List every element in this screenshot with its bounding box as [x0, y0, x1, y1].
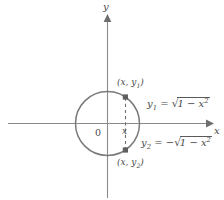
x-axis-label: x: [214, 126, 220, 136]
lower-point-label-prefix: (x, y: [117, 157, 136, 167]
upper-point-label-suffix: ): [140, 77, 144, 87]
equation-2-radicand-body: 1 − x: [180, 137, 207, 148]
chord-x-label: x: [122, 127, 127, 136]
equation-1-radicand: 1 − x2: [177, 97, 209, 109]
origin-label: 0: [95, 128, 101, 138]
lower-point-label-suffix: ): [140, 157, 144, 167]
lower-point-marker: [123, 147, 128, 152]
equation-2-radicand: 1 − x2: [180, 136, 212, 148]
equation-1-exponent: 2: [204, 97, 208, 105]
equation-1-subscript: 1: [153, 104, 157, 112]
upper-semicircle-equation: y1 = √1 − x2: [147, 98, 210, 112]
lower-point-label: (x, y2): [117, 158, 144, 169]
equation-2-exponent: 2: [207, 136, 211, 144]
unit-circle-diagram: y x 0 x (x, y1) (x, y2) y1 = √1 − x2 y2 …: [0, 0, 224, 200]
equation-2-relation: =: [154, 137, 162, 148]
upper-point-label: (x, y1): [117, 78, 144, 89]
equation-1-radicand-body: 1 − x: [177, 98, 204, 109]
upper-point-label-prefix: (x, y: [117, 77, 136, 87]
equation-1-relation: =: [160, 98, 168, 109]
equation-2-sign: −: [166, 137, 174, 148]
x-axis-arrowhead: [206, 120, 214, 128]
equation-2-subscript: 2: [147, 143, 151, 151]
y-axis-label: y: [103, 2, 109, 12]
upper-point-marker: [123, 94, 128, 99]
y-axis-arrowhead: [104, 14, 112, 22]
lower-semicircle-equation: y2 = −√1 − x2: [141, 137, 212, 151]
